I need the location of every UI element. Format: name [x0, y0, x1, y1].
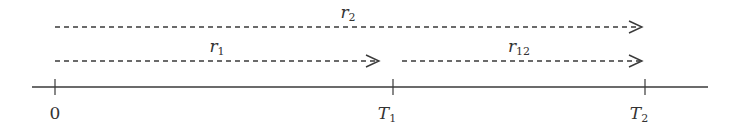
tick-label-0: 0	[50, 103, 61, 123]
tick-label-t2: T2	[630, 103, 648, 125]
label-r1: r1	[209, 36, 224, 58]
timeline-diagram: 0 T1 T2 r2 r1 r12	[0, 0, 742, 139]
label-r12: r12	[508, 36, 530, 58]
tick-label-t1: T1	[378, 103, 396, 125]
label-r2: r2	[340, 2, 355, 24]
